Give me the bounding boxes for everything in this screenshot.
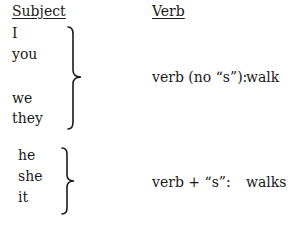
subject-item: we <box>12 90 32 106</box>
subject-item: you <box>12 46 37 62</box>
subject-header: Subject <box>12 3 66 19</box>
subject-item: he <box>18 147 35 163</box>
verb-header: Verb <box>152 3 185 19</box>
subject-item: I <box>12 25 18 41</box>
right-brace-icon <box>60 147 80 215</box>
subject-item: she <box>18 168 43 184</box>
rule-no-s: verb (no “s”): <box>152 69 247 85</box>
right-brace-icon <box>66 26 86 130</box>
example-walk: walk <box>246 69 279 85</box>
subject-item: it <box>18 189 28 205</box>
rule-plus-s: verb + “s”: <box>152 174 231 190</box>
subject-item: they <box>12 110 43 126</box>
example-walks: walks <box>246 174 286 190</box>
